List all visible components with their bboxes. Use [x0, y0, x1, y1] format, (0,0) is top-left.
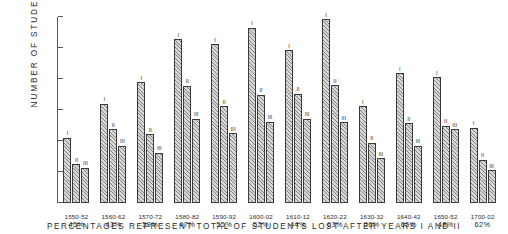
bar-group: IIIIII — [390, 17, 427, 203]
bar-series-label: III — [157, 145, 162, 152]
bar-ii: II — [72, 164, 80, 203]
bar-series-label: II — [75, 157, 78, 164]
bar-series-label: II — [296, 86, 299, 93]
bar-series-label: II — [481, 152, 484, 159]
bar-i: I — [174, 39, 182, 203]
bar-i: I — [211, 44, 219, 203]
bar-iii: III — [266, 122, 274, 203]
bar-group: IIIIII — [95, 17, 132, 203]
bar-series-label: III — [231, 126, 236, 133]
bar-ii: II — [479, 160, 487, 203]
bar-series-label: I — [177, 32, 179, 39]
plot-area: 100200300400500600 IIIIIIIIIIIIIIIIIIIII… — [57, 17, 501, 203]
bar-i: I — [100, 104, 108, 203]
bar-series-label: II — [186, 78, 189, 85]
bar-series-label: I — [325, 12, 327, 19]
bar-iii: III — [340, 122, 348, 203]
bar-series-label: III — [452, 122, 457, 129]
bar-series-label: II — [260, 87, 263, 94]
bar-ii: II — [442, 126, 450, 204]
bar-series-label: I — [362, 99, 364, 106]
bar-series-label: I — [473, 120, 475, 127]
bar-series-label: I — [141, 75, 143, 82]
bar-chart-figure: NUMBER OF STUDENTS 100200300400500600 II… — [0, 0, 508, 234]
bar-iii: III — [377, 158, 385, 203]
bar-series-label: III — [415, 138, 420, 145]
bar-series-label: II — [112, 122, 115, 129]
bar-i: I — [433, 77, 441, 203]
bar-group: IIIIII — [427, 17, 464, 203]
bar-group: IIIIII — [353, 17, 390, 203]
bar-iii: III — [155, 153, 163, 203]
bar-series-label: II — [407, 116, 410, 123]
bar-series-label: I — [251, 20, 253, 27]
bar-group: IIIIII — [206, 17, 243, 203]
bar-series-label: III — [83, 160, 88, 167]
bar-ii: II — [146, 134, 154, 203]
bar-series-label: I — [214, 37, 216, 44]
bar-series-label: I — [104, 96, 106, 103]
bar-series-label: III — [489, 163, 494, 170]
bar-iii: III — [451, 129, 459, 203]
bar-ii: II — [405, 123, 413, 203]
bar-series-label: II — [223, 99, 226, 106]
bar-group: IIIIII — [169, 17, 206, 203]
bar-ii: II — [109, 129, 117, 203]
bar-i: I — [359, 106, 367, 203]
bar-series-label: III — [305, 111, 310, 118]
bar-iii: III — [81, 168, 89, 203]
bar-iii: III — [229, 133, 237, 203]
bar-groups: IIIIIIIIIIIIIIIIIIIIIIIIIIIIIIIIIIIIIIII… — [58, 17, 501, 203]
bar-series-label: I — [67, 130, 69, 137]
bar-iii: III — [303, 119, 311, 203]
bar-i: I — [63, 138, 71, 203]
bar-iii: III — [118, 146, 126, 203]
bar-group: IIIIII — [243, 17, 280, 203]
bar-iii: III — [192, 119, 200, 203]
bar-i: I — [470, 128, 478, 203]
bar-i: I — [322, 19, 330, 203]
bar-series-label: II — [333, 78, 336, 85]
bar-iii: III — [414, 146, 422, 203]
bar-series-label: II — [444, 118, 447, 125]
bar-ii: II — [368, 143, 376, 203]
bar-series-label: III — [194, 111, 199, 118]
bar-group: IIIIII — [280, 17, 317, 203]
bar-series-label: I — [288, 43, 290, 50]
bar-i: I — [285, 50, 293, 203]
bar-series-label: I — [436, 70, 438, 77]
bar-group: IIIIII — [316, 17, 353, 203]
bar-ii: II — [294, 94, 302, 203]
bar-ii: II — [183, 86, 191, 203]
bar-i: I — [137, 82, 145, 203]
bar-ii: II — [220, 106, 228, 203]
bar-ii: II — [331, 85, 339, 203]
chart-caption: PERCENTAGES REPRESENT TOTAL OF STUDENTS … — [0, 222, 508, 231]
bar-iii: III — [488, 170, 496, 203]
bar-group: IIIIII — [464, 17, 501, 203]
y-axis-title: NUMBER OF STUDENTS — [30, 0, 39, 123]
bar-series-label: I — [399, 66, 401, 73]
bar-series-label: II — [149, 127, 152, 134]
bar-group: IIIIII — [58, 17, 95, 203]
bar-group: IIIIII — [132, 17, 169, 203]
bar-series-label: II — [370, 135, 373, 142]
bar-series-label: III — [342, 115, 347, 122]
bar-series-label: III — [378, 151, 383, 158]
bar-series-label: III — [120, 138, 125, 145]
bar-i: I — [396, 73, 404, 203]
bar-series-label: III — [268, 114, 273, 121]
bar-i: I — [248, 28, 256, 203]
bar-ii: II — [257, 95, 265, 204]
